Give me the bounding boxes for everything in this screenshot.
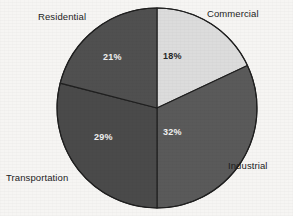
pie-value-label-industrial: 32%: [163, 127, 182, 137]
pie-slices: [57, 8, 257, 208]
pie-category-label-industrial: Industrial: [228, 160, 268, 171]
pie-value-label-residential: 21%: [103, 52, 122, 62]
pie-category-label-commercial: Commercial: [207, 8, 259, 19]
pie-chart-figure: 18% 32% 29% 21% Commercial Industrial Tr…: [0, 0, 293, 216]
pie-category-label-transportation: Transportation: [6, 172, 68, 183]
pie-chart-canvas: [0, 0, 293, 216]
pie-value-label-transportation: 29%: [94, 132, 113, 142]
pie-value-label-commercial: 18%: [163, 51, 182, 61]
pie-category-label-residential: Residential: [38, 11, 86, 22]
